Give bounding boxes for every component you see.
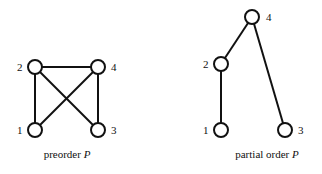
node-2 [214,57,228,71]
edge-4-2 [221,17,252,64]
caption-preorder: preorder P [44,148,91,160]
node-3 [91,123,105,137]
node-label-4: 4 [111,61,117,73]
node-4 [91,60,105,74]
node-label-4: 4 [266,11,272,23]
node-label-1: 1 [203,124,209,136]
caption-text: preorder [44,148,84,160]
node-2 [28,60,42,74]
edge-4-3 [252,17,285,130]
node-4 [245,10,259,24]
node-3 [278,123,292,137]
partial-order-graph: 4 2 1 3 partial order P [203,10,304,160]
node-label-1: 1 [17,124,23,136]
caption-symbol: P [291,148,299,160]
caption-partial-order: partial order P [235,148,299,160]
node-1 [28,123,42,137]
caption-symbol: P [83,148,91,160]
preorder-graph: 2 4 1 3 preorder P [17,60,117,160]
node-label-3: 3 [111,124,117,136]
node-label-3: 3 [298,124,304,136]
order-diagrams: 2 4 1 3 preorder P 4 2 1 3 partial order… [0,0,322,174]
caption-text: partial order [235,148,292,160]
node-1 [214,123,228,137]
node-label-2: 2 [17,61,23,73]
node-label-2: 2 [203,58,209,70]
